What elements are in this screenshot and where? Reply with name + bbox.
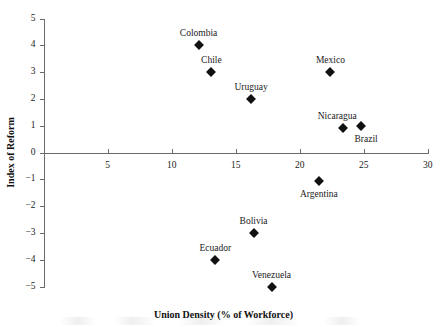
- data-point-label: Bolivia: [240, 217, 268, 227]
- y-tick-label: 0: [14, 148, 36, 158]
- y-tick: [40, 19, 45, 20]
- y-tick-label: 4: [14, 40, 36, 50]
- y-tick: [40, 287, 45, 288]
- x-tick-label: 20: [287, 161, 313, 171]
- page-artifact: [60, 317, 360, 325]
- x-tick: [172, 149, 173, 154]
- y-tick-label: −2: [14, 201, 36, 211]
- y-tick: [40, 260, 45, 261]
- y-tick: [40, 126, 45, 127]
- y-tick: [40, 206, 45, 207]
- y-tick: [40, 179, 45, 180]
- data-point-label: Brazil: [355, 135, 378, 145]
- data-point-marker: [206, 67, 216, 77]
- y-tick: [40, 72, 45, 73]
- y-tick-label: 2: [14, 94, 36, 104]
- x-tick-label: 15: [223, 161, 249, 171]
- x-tick: [300, 149, 301, 154]
- data-point-marker: [356, 121, 366, 131]
- y-tick-label: −4: [14, 255, 36, 265]
- x-tick-label: 5: [95, 161, 121, 171]
- y-tick-label: −5: [14, 282, 36, 292]
- data-point-marker: [314, 176, 324, 186]
- x-tick: [364, 149, 365, 154]
- data-point-marker: [267, 282, 277, 292]
- data-point-label: Nicaragua: [318, 112, 357, 122]
- data-point-label: Colombia: [180, 29, 217, 39]
- x-tick-label: 10: [159, 161, 185, 171]
- data-point-marker: [249, 228, 259, 238]
- y-tick: [40, 233, 45, 234]
- y-tick: [40, 45, 45, 46]
- data-point-label: Ecuador: [199, 244, 231, 254]
- x-tick-label: 25: [351, 161, 377, 171]
- data-point-marker: [338, 123, 348, 133]
- y-tick-label: −3: [14, 228, 36, 238]
- data-point-label: Chile: [201, 56, 222, 66]
- data-point-label: Mexico: [316, 56, 345, 66]
- y-tick-label: 3: [14, 67, 36, 77]
- y-tick: [40, 99, 45, 100]
- data-point-label: Venezuela: [252, 271, 291, 281]
- y-tick: [40, 153, 45, 154]
- data-point-label: Argentina: [300, 190, 338, 200]
- y-tick-label: −1: [14, 174, 36, 184]
- y-tick-label: 1: [14, 121, 36, 131]
- data-point-marker: [194, 40, 204, 50]
- x-tick: [108, 149, 109, 154]
- data-point-label: Uruguay: [234, 83, 267, 93]
- x-tick: [428, 149, 429, 154]
- plot-area: 543210−1−2−3−4−5 51015202530 ColombiaChi…: [0, 0, 447, 327]
- x-tick: [236, 149, 237, 154]
- x-tick-label: 30: [415, 161, 441, 171]
- data-point-marker: [210, 255, 220, 265]
- data-point-marker: [246, 94, 256, 104]
- data-point-marker: [325, 67, 335, 77]
- y-axis-title: Index of Reform: [4, 92, 15, 212]
- y-tick-label: 5: [14, 14, 36, 24]
- scatter-chart: 543210−1−2−3−4−5 51015202530 ColombiaChi…: [0, 0, 447, 327]
